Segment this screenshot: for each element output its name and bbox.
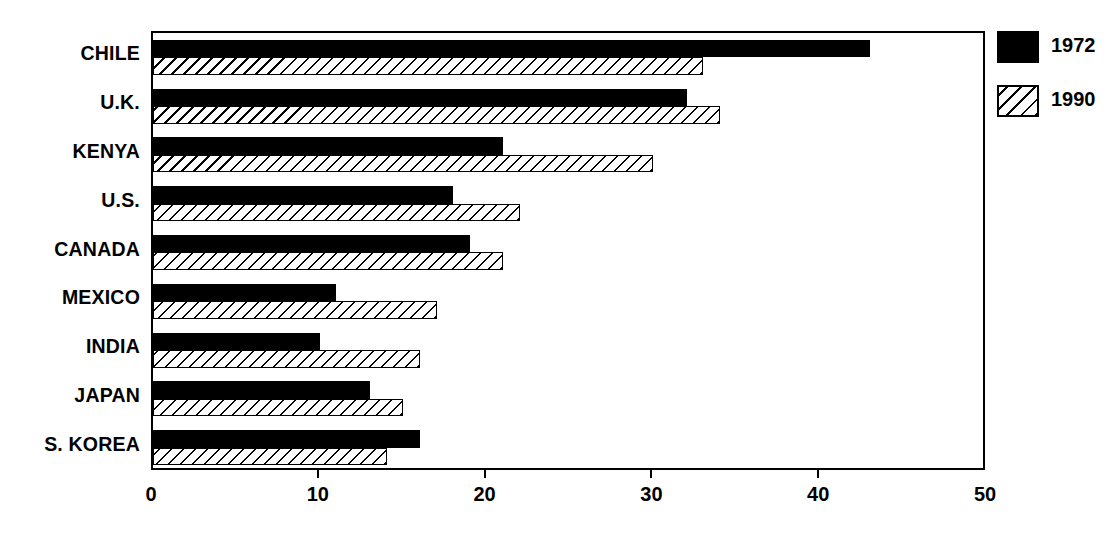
x-tick-mark-20 — [484, 470, 486, 478]
x-tick-label-0: 0 — [121, 483, 181, 506]
x-tick-mark-30 — [650, 470, 652, 478]
x-tick-mark-10 — [317, 470, 319, 478]
x-tick-label-50: 50 — [955, 483, 1015, 506]
legend-item-1972: 1972 — [997, 31, 1117, 85]
chart-legend: 19721990 — [997, 31, 1117, 139]
legend-item-1990: 1990 — [997, 85, 1117, 139]
y-tick-label-chile: CHILE — [0, 42, 140, 65]
y-tick-label-india: INDIA — [0, 335, 140, 358]
x-tick-mark-40 — [817, 470, 819, 478]
legend-label-1972: 1972 — [1051, 34, 1096, 57]
y-tick-label-canada: CANADA — [0, 238, 140, 261]
y-tick-label-s-korea: S. KOREA — [0, 433, 140, 456]
y-tick-label-kenya: KENYA — [0, 140, 140, 163]
y-tick-label-japan: JAPAN — [0, 384, 140, 407]
y-tick-label-u-s-: U.S. — [0, 189, 140, 212]
solid-black-swatch — [997, 31, 1039, 63]
y-tick-label-u-k-: U.K. — [0, 91, 140, 114]
x-tick-label-40: 40 — [788, 483, 848, 506]
x-tick-label-30: 30 — [621, 483, 681, 506]
y-axis-category-labels: CHILEU.K.KENYAU.S.CANADAMEXICOINDIAJAPAN… — [0, 31, 1117, 470]
y-tick-label-mexico: MEXICO — [0, 286, 140, 309]
x-tick-label-10: 10 — [288, 483, 348, 506]
legend-label-1990: 1990 — [1051, 88, 1096, 111]
hatched-swatch — [997, 85, 1039, 117]
x-tick-label-20: 20 — [455, 483, 515, 506]
bar-chart: CHILEU.K.KENYAU.S.CANADAMEXICOINDIAJAPAN… — [0, 0, 1117, 542]
